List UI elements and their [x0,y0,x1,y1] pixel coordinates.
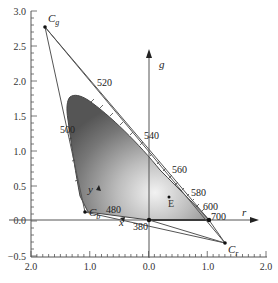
cg-label: Cg [48,12,59,27]
spectral-locus [67,95,209,220]
wl-560: 560 [172,164,187,175]
r-axis-label: r [242,206,247,218]
x-tick-right-2.0: 2.0 [260,261,273,272]
wl-480: 480 [106,204,121,215]
y-axis: 3.0 2.5 2.0 1.5 1.0 0.5 0.0 −0.5 [8,6,37,262]
wl-500: 500 [60,124,75,135]
x-tick-left-2.0: 2.0 [25,261,38,272]
origin-to-cr-line [149,220,225,243]
y-tick-1.5: 1.5 [14,111,27,122]
y-point-label: y [87,183,93,195]
x-tick-0.0: 0.0 [143,261,156,272]
y-tick-2.0: 2.0 [14,76,27,87]
y-tick-0.5: 0.5 [14,181,27,192]
wl-700: 700 [211,211,226,222]
cr-label: Cr [228,243,239,258]
y-tick-3.0: 3.0 [14,6,27,17]
g-axis-label: g [159,58,165,70]
wl-520: 520 [97,77,112,88]
cr-point [223,241,227,245]
x-tick-left-1.0: 1.0 [84,261,97,272]
wl-580: 580 [191,187,206,198]
x-point-label: x [118,216,124,228]
x-tick-right-1.0: 1.0 [202,261,215,272]
y-tick-neg0.5: −0.5 [8,251,26,262]
cg-point [43,25,47,29]
wl-380: 380 [133,221,148,232]
wl-540: 540 [144,130,159,141]
y-tick-2.5: 2.5 [14,41,27,52]
cb-point [83,210,87,214]
y-tick-1.0: 1.0 [14,146,27,157]
white-point-label: E [168,198,174,209]
chromaticity-diagram: 3.0 2.5 2.0 1.5 1.0 0.5 0.0 −0.5 2.0 1.0… [0,0,278,283]
